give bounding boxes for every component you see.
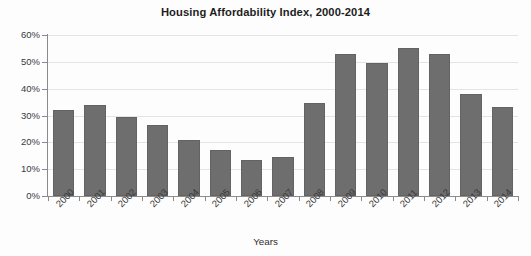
x-axis-label-2010: 2010 xyxy=(367,187,389,209)
x-axis-label-2003: 2003 xyxy=(148,187,170,209)
x-axis-label-2008: 2008 xyxy=(304,187,326,209)
x-axis-label-2005: 2005 xyxy=(210,187,232,209)
x-axis-tick-labels: 2000200120022003200420052006200720082009… xyxy=(0,0,531,256)
x-axis-label-2013: 2013 xyxy=(461,187,483,209)
x-axis-label-2014: 2014 xyxy=(492,187,514,209)
y-tick-60 xyxy=(42,35,48,36)
x-axis-label-2012: 2012 xyxy=(430,187,452,209)
x-axis-label-2011: 2011 xyxy=(398,188,419,209)
bar-chart: Housing Affordability Index, 2000-2014 6… xyxy=(0,0,531,256)
y-tick-30 xyxy=(42,116,48,117)
y-tick-20 xyxy=(42,142,48,143)
y-tick-40 xyxy=(42,89,48,90)
x-axis-label-2002: 2002 xyxy=(116,187,138,209)
x-axis-label-2001: 2001 xyxy=(85,187,107,209)
x-axis-label-2007: 2007 xyxy=(273,187,295,209)
x-axis-label-2006: 2006 xyxy=(242,187,264,209)
x-axis-label-2009: 2009 xyxy=(336,187,358,209)
y-tick-10 xyxy=(42,169,48,170)
x-axis-label-2000: 2000 xyxy=(54,187,76,209)
x-axis-label-2004: 2004 xyxy=(179,187,201,209)
x-axis-title: Years xyxy=(0,236,531,247)
y-tick-0 xyxy=(42,196,48,197)
y-tick-50 xyxy=(42,62,48,63)
